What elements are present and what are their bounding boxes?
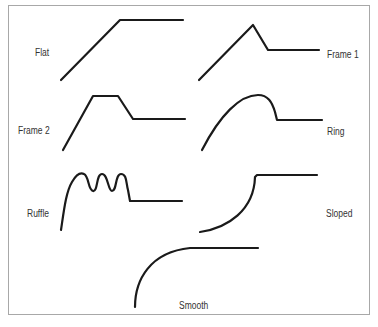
smooth-shape (135, 248, 258, 307)
label-flat: Flat (35, 47, 49, 58)
label-frame1: Frame 1 (327, 49, 359, 60)
sloped-shape (200, 175, 317, 232)
label-sloped: Sloped (326, 208, 352, 219)
ruffle-shape (61, 173, 182, 230)
shapes-canvas (0, 0, 378, 327)
label-ruffle: Ruffle (27, 208, 49, 219)
frame2-shape (63, 96, 185, 150)
ring-shape (202, 95, 322, 150)
frame1-shape (199, 25, 319, 80)
flat-shape (61, 20, 183, 80)
label-frame2: Frame 2 (18, 125, 50, 136)
label-ring: Ring (327, 126, 344, 137)
label-smooth: Smooth (179, 300, 208, 311)
